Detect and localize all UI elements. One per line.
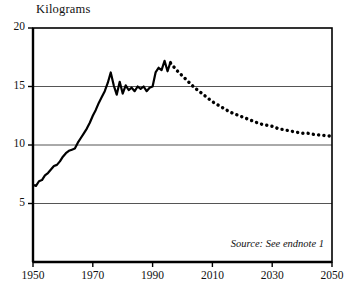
- x-tick-label: 2030: [250, 269, 294, 281]
- y-axis-title: Kilograms: [36, 2, 91, 17]
- x-tick-label: 1950: [11, 269, 55, 281]
- x-tick-label: 1970: [71, 269, 115, 281]
- y-tick-label: 5: [1, 196, 25, 208]
- x-tick-label: 1990: [131, 269, 175, 281]
- y-tick-label: 10: [1, 137, 25, 149]
- x-tick-label: 2050: [310, 269, 350, 281]
- y-tick-label: 20: [1, 20, 25, 32]
- plot-area: [0, 0, 350, 295]
- data-series-group: [33, 61, 332, 186]
- y-tick-label: 15: [1, 79, 25, 91]
- source-note: Source: See endnote 1: [231, 238, 324, 249]
- x-tick-label: 2010: [190, 269, 234, 281]
- chart-figure: Kilograms 5101520 1950197019902010203020…: [0, 0, 350, 295]
